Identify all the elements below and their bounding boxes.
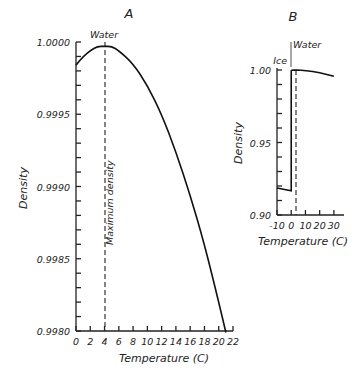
panel-b-water-curve	[291, 70, 334, 76]
x-tick-label: 4	[102, 336, 108, 347]
x-tick-label: -10	[269, 220, 285, 231]
x-tick-label: 0	[288, 220, 294, 231]
y-tick-label: 0.9995	[37, 109, 70, 120]
x-tick-label: 20	[314, 220, 326, 231]
y-tick-label: 0.90	[250, 210, 271, 221]
x-tick-label: 14	[170, 336, 182, 347]
x-tick-label: 0	[73, 336, 79, 347]
panel-b-ice-label: Ice	[273, 55, 287, 66]
panel-a-title: A	[124, 6, 134, 21]
max-density-label: Maximum density	[104, 160, 115, 245]
panel-b-water-label: Water	[293, 39, 322, 50]
panel-b-ice-curve	[277, 70, 291, 190]
x-tick-label: 2	[87, 336, 93, 347]
x-tick-label: 6	[116, 336, 122, 347]
x-tick-label: 8	[130, 336, 136, 347]
panel-a: A 1.00000.99950.99900.99850.9980 0246810…	[17, 6, 239, 365]
y-tick-label: 0.95	[250, 138, 271, 149]
panel-a-x-ticks: 0246810121416182022	[73, 326, 239, 347]
x-tick-label: 10	[299, 220, 311, 231]
x-tick-label: 10	[141, 336, 153, 347]
figure: A 1.00000.99950.99900.99850.9980 0246810…	[0, 0, 362, 376]
panel-b-ylabel: Density	[232, 122, 245, 164]
y-tick-label: 1.0000	[37, 37, 70, 48]
panel-a-ylabel: Density	[17, 167, 30, 209]
x-tick-label: 30	[328, 220, 340, 231]
panel-a-xlabel: Temperature (C)	[119, 352, 209, 365]
x-tick-label: 18	[198, 336, 210, 347]
y-tick-label: 1.00	[250, 65, 271, 76]
panel-b-x-ticks: -100102030	[269, 210, 340, 231]
x-tick-label: 16	[184, 336, 196, 347]
x-tick-label: 12	[156, 336, 168, 347]
y-tick-label: 0.9985	[37, 254, 70, 265]
y-tick-label: 0.9990	[37, 182, 70, 193]
panel-a-y-ticks: 1.00000.99950.99900.99850.9980	[37, 37, 81, 337]
y-tick-label: 0.9980	[37, 326, 70, 337]
panel-a-water-label: Water	[90, 29, 119, 40]
panel-b-title: B	[289, 9, 298, 24]
panel-b-xlabel: Temperature (C)	[258, 235, 348, 248]
panel-a-water-curve	[76, 46, 226, 332]
panel-b: B 1.000.950.90 -100102030 Water Ice Dens…	[232, 9, 348, 248]
x-tick-label: 20	[213, 336, 225, 347]
x-tick-label: 22	[227, 336, 239, 347]
